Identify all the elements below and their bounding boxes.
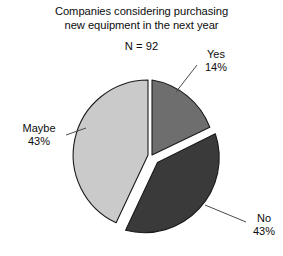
slice-label-yes-percent: 14%	[197, 61, 235, 74]
slice-label-no-percent: 43%	[247, 225, 281, 238]
slice-label-yes: Yes 14%	[197, 48, 235, 73]
slice-label-yes-name: Yes	[197, 48, 235, 61]
pie-chart-figure: Companies considering purchasing new equ…	[0, 0, 283, 256]
slice-label-no-name: No	[247, 212, 281, 225]
leader-line-yes	[176, 65, 197, 92]
slice-label-no: No 43%	[247, 212, 281, 237]
leader-line-no	[205, 205, 246, 222]
slice-label-maybe-name: Maybe	[10, 122, 68, 135]
slice-label-maybe-percent: 43%	[10, 135, 68, 148]
pie-slice-maybe[interactable]	[73, 80, 148, 223]
slice-label-maybe: Maybe 43%	[10, 122, 68, 147]
